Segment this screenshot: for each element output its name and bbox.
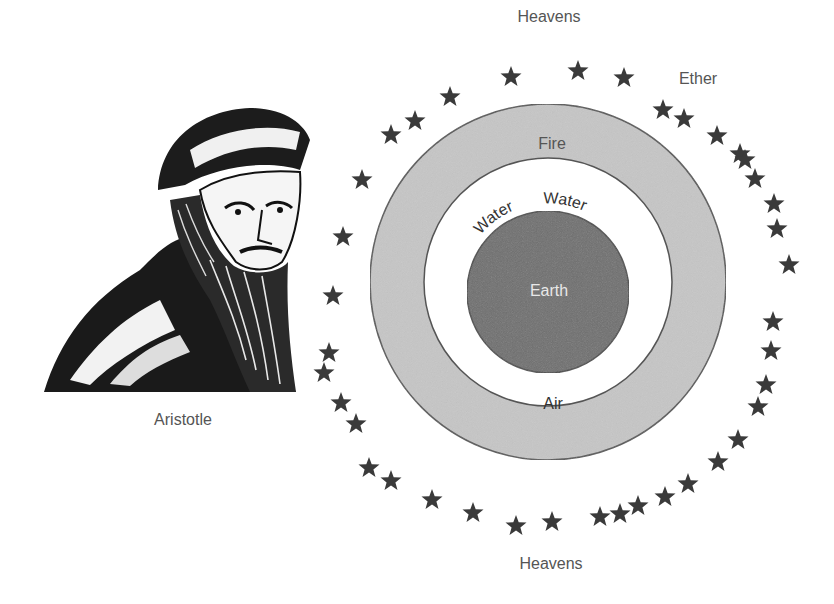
star-icon [653,99,674,119]
star-icon [405,110,426,130]
ether-label: Ether [679,70,717,88]
star-icon [381,124,402,144]
air-label: Air [543,395,563,413]
star-icon [314,362,335,382]
cosmology-diagram: Water Water [0,0,834,604]
star-icon [506,515,527,535]
star-icon [352,169,373,189]
star-icon [756,374,777,394]
star-icon [767,218,788,238]
star-icon [779,254,800,274]
star-icon [542,511,563,531]
star-icon [568,60,589,80]
star-icon [333,226,354,246]
star-icon [381,470,402,490]
star-icon [655,486,676,506]
star-icon [678,473,699,493]
star-icon [748,396,769,416]
star-icon [331,392,352,412]
heavens-top-label: Heavens [517,8,580,26]
star-icon [761,340,782,360]
aristotle-caption: Aristotle [154,411,212,429]
star-icon [359,457,380,477]
star-icon [708,451,729,471]
star-icon [610,503,631,523]
earth-label: Earth [530,282,568,300]
heavens-bottom-label: Heavens [519,555,582,573]
star-icon [346,413,367,433]
star-icon [763,311,784,331]
star-icon [707,125,728,145]
star-icon [590,506,611,526]
star-icon [323,285,344,305]
star-icon [764,193,785,213]
star-icon [674,108,695,128]
star-icon [614,67,635,87]
star-icon [319,342,340,362]
star-icon [728,429,749,449]
fire-label: Fire [538,135,566,153]
aristotle-portrait [44,108,310,392]
star-icon [422,489,443,509]
star-icon [501,66,522,86]
star-icon [745,168,766,188]
star-icon [463,502,484,522]
star-icon [628,495,649,515]
star-icon [440,86,461,106]
